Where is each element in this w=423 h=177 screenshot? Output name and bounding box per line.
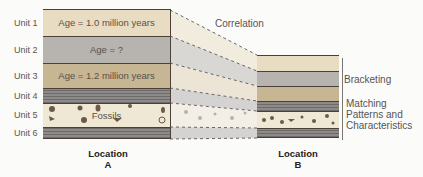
location-b-word: Location [258,148,338,159]
location-a-label: Location A [68,148,148,170]
correlation-label: Correlation [215,18,264,29]
matching-line-1: Matching [346,98,412,109]
location-a-word: Location [68,148,148,159]
location-b-letter: B [258,159,338,170]
matching-label: Matching Patterns and Characteristics [346,98,412,131]
b-fossil-icons [0,0,423,177]
matching-line-3: Characteristics [346,120,412,131]
bracketing-label: Bracketing [344,74,391,85]
location-b-label: Location B [258,148,338,170]
matching-bracket [342,90,343,140]
matching-line-2: Patterns and [346,109,412,120]
location-a-letter: A [68,159,148,170]
